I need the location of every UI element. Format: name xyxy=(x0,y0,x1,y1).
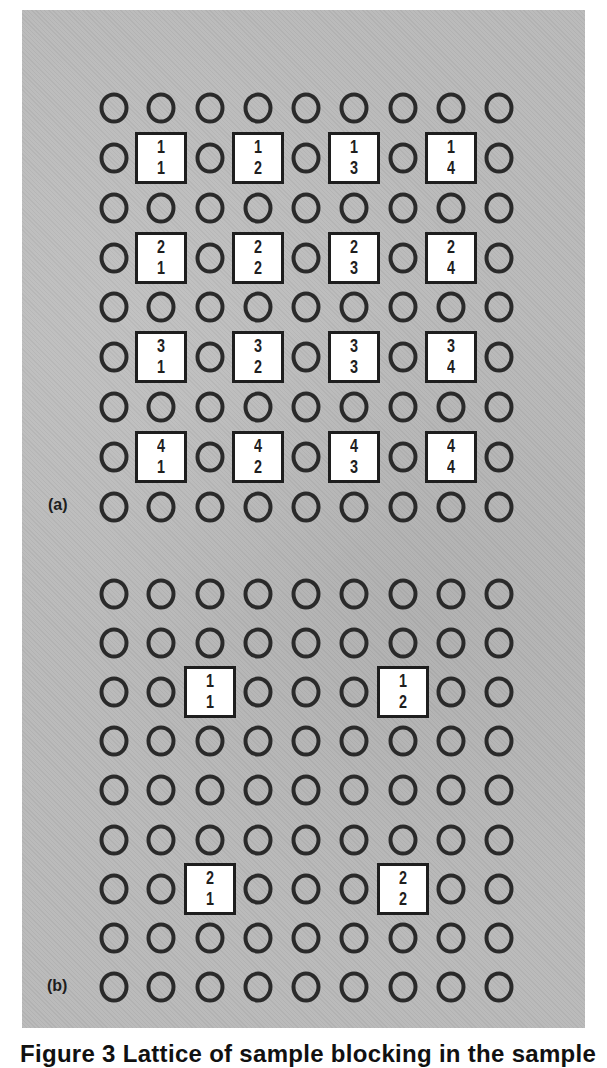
lattice-point-circle-icon xyxy=(437,579,466,610)
block-col-index: 1 xyxy=(157,158,165,179)
lattice-point-circle-icon xyxy=(437,972,466,1003)
block-col-index: 1 xyxy=(157,457,165,478)
lattice-point-circle-icon xyxy=(196,492,225,523)
block-col-index: 3 xyxy=(350,357,358,378)
block-col-index: 1 xyxy=(157,357,165,378)
lattice-point-circle-icon xyxy=(485,628,514,659)
lattice-point-circle-icon xyxy=(147,93,176,124)
lattice-point-circle-icon xyxy=(292,392,321,423)
block-row-index: 2 xyxy=(157,237,165,258)
block-4-2: 42 xyxy=(232,431,284,483)
lattice-point-circle-icon xyxy=(100,143,129,174)
lattice-point-circle-icon xyxy=(244,579,273,610)
lattice-point-circle-icon xyxy=(485,93,514,124)
lattice-point-circle-icon xyxy=(292,874,321,905)
block-4-3: 43 xyxy=(328,431,380,483)
lattice-point-circle-icon xyxy=(340,923,369,954)
lattice-point-circle-icon xyxy=(389,442,418,473)
lattice-point-circle-icon xyxy=(196,579,225,610)
block-2-2: 22 xyxy=(377,863,429,915)
block-col-index: 3 xyxy=(350,258,358,279)
lattice-point-circle-icon xyxy=(100,292,129,323)
lattice-point-circle-icon xyxy=(340,579,369,610)
block-row-index: 1 xyxy=(254,137,262,158)
block-col-index: 4 xyxy=(447,158,455,179)
block-row-index: 4 xyxy=(157,436,165,457)
lattice-point-circle-icon xyxy=(292,825,321,856)
block-4-4: 44 xyxy=(425,431,477,483)
lattice-point-circle-icon xyxy=(389,923,418,954)
lattice-point-circle-icon xyxy=(437,492,466,523)
lattice-point-circle-icon xyxy=(340,972,369,1003)
lattice-point-circle-icon xyxy=(196,392,225,423)
lattice-point-circle-icon xyxy=(100,775,129,806)
lattice-point-circle-icon xyxy=(340,775,369,806)
lattice-point-circle-icon xyxy=(292,342,321,373)
lattice-point-circle-icon xyxy=(485,825,514,856)
lattice-point-circle-icon xyxy=(389,243,418,274)
lattice-point-circle-icon xyxy=(389,342,418,373)
lattice-point-circle-icon xyxy=(292,923,321,954)
block-col-index: 2 xyxy=(399,692,407,713)
block-1-2: 12 xyxy=(377,666,429,718)
lattice-point-circle-icon xyxy=(147,972,176,1003)
block-2-4: 24 xyxy=(425,232,477,284)
lattice-point-circle-icon xyxy=(292,93,321,124)
lattice-point-circle-icon xyxy=(100,726,129,757)
lattice-point-circle-icon xyxy=(389,775,418,806)
lattice-point-circle-icon xyxy=(100,677,129,708)
lattice-point-circle-icon xyxy=(244,923,273,954)
lattice-point-circle-icon xyxy=(292,243,321,274)
lattice-point-circle-icon xyxy=(196,775,225,806)
lattice-point-circle-icon xyxy=(244,726,273,757)
lattice-point-circle-icon xyxy=(437,628,466,659)
lattice-point-circle-icon xyxy=(244,874,273,905)
lattice-point-circle-icon xyxy=(389,392,418,423)
block-1-1: 11 xyxy=(184,666,236,718)
lattice-point-circle-icon xyxy=(147,392,176,423)
lattice-point-circle-icon xyxy=(437,292,466,323)
lattice-point-circle-icon xyxy=(100,579,129,610)
lattice-point-circle-icon xyxy=(147,726,176,757)
lattice-point-circle-icon xyxy=(292,677,321,708)
block-row-index: 2 xyxy=(206,868,214,889)
lattice-point-circle-icon xyxy=(100,923,129,954)
block-row-index: 1 xyxy=(350,137,358,158)
lattice-point-circle-icon xyxy=(244,972,273,1003)
lattice-point-circle-icon xyxy=(100,193,129,224)
lattice-point-circle-icon xyxy=(100,93,129,124)
lattice-point-circle-icon xyxy=(485,392,514,423)
block-col-index: 2 xyxy=(254,258,262,279)
lattice-point-circle-icon xyxy=(340,292,369,323)
lattice-point-circle-icon xyxy=(196,143,225,174)
lattice-point-circle-icon xyxy=(244,392,273,423)
block-row-index: 2 xyxy=(399,868,407,889)
lattice-point-circle-icon xyxy=(147,628,176,659)
lattice-point-circle-icon xyxy=(485,442,514,473)
lattice-point-circle-icon xyxy=(485,775,514,806)
block-row-index: 2 xyxy=(447,237,455,258)
lattice-point-circle-icon xyxy=(485,874,514,905)
lattice-point-circle-icon xyxy=(437,726,466,757)
lattice-point-circle-icon xyxy=(244,292,273,323)
figure-caption: Figure 3 Lattice of sample blocking in t… xyxy=(20,1040,596,1068)
lattice-point-circle-icon xyxy=(485,923,514,954)
lattice-point-circle-icon xyxy=(389,972,418,1003)
block-row-index: 1 xyxy=(157,137,165,158)
panel-label: (a) xyxy=(48,496,68,514)
lattice-point-circle-icon xyxy=(147,292,176,323)
lattice-point-circle-icon xyxy=(485,579,514,610)
block-3-4: 34 xyxy=(425,331,477,383)
lattice-point-circle-icon xyxy=(292,775,321,806)
lattice-point-circle-icon xyxy=(389,825,418,856)
lattice-point-circle-icon xyxy=(485,726,514,757)
block-2-1: 21 xyxy=(184,863,236,915)
block-row-index: 4 xyxy=(350,436,358,457)
lattice-point-circle-icon xyxy=(100,972,129,1003)
lattice-point-circle-icon xyxy=(340,193,369,224)
block-1-2: 12 xyxy=(232,132,284,184)
block-col-index: 3 xyxy=(350,158,358,179)
lattice-point-circle-icon xyxy=(389,292,418,323)
lattice-point-circle-icon xyxy=(196,726,225,757)
